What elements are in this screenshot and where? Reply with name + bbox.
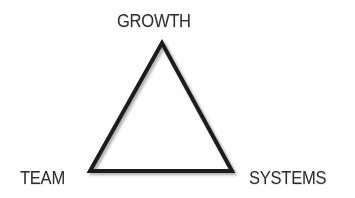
- vertex-label-team: TEAM: [20, 168, 65, 189]
- vertex-label-systems: SYSTEMS: [249, 168, 326, 189]
- vertex-label-growth: GROWTH: [117, 11, 191, 32]
- growth-team-systems-diagram: GROWTH TEAM SYSTEMS: [0, 0, 355, 198]
- triangle-shape: [90, 43, 232, 171]
